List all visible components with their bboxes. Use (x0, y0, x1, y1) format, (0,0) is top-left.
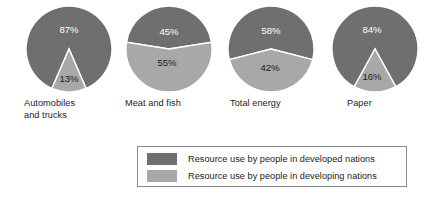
legend-swatch-developed (147, 153, 177, 165)
pie-svg-3: 84% 16% (320, 0, 430, 96)
pie-svg-0: 87% 13% (14, 0, 124, 96)
slice-value-developing-3: 16% (362, 71, 382, 82)
pie-graphic: 45% 55% (114, 0, 224, 96)
pie-chart-row: 87% 13% Automobiles and trucks 45% 55% M… (0, 0, 432, 136)
pie-chart-figure: 87% 13% Automobiles and trucks 45% 55% M… (0, 0, 432, 208)
legend-item-developed: Resource use by people in developed nati… (147, 152, 375, 166)
pie-chart-total-energy: 58% 42% Total energy (216, 0, 326, 136)
legend-item-developing: Resource use by people in developing nat… (147, 169, 377, 183)
slice-value-developing-2: 42% (260, 62, 280, 73)
slice-value-developed-2: 58% (261, 25, 281, 36)
pie-graphic: 87% 13% (14, 0, 124, 96)
slice-value-developing-1: 55% (157, 57, 177, 68)
legend: Resource use by people in developed nati… (137, 146, 407, 187)
legend-label-developing: Resource use by people in developing nat… (188, 171, 377, 181)
pie-chart-paper: 84% 16% Paper (320, 0, 430, 136)
pie-chart-meat-and-fish: 45% 55% Meat and fish (114, 0, 224, 136)
pie-label-paper: Paper (347, 98, 372, 110)
pie-svg-2: 58% 42% (216, 0, 326, 96)
pie-label-meat-and-fish: Meat and fish (125, 98, 181, 110)
slice-value-developed-1: 45% (159, 26, 179, 37)
pie-slices-1 (126, 6, 212, 92)
slice-value-developed-0: 87% (59, 24, 79, 35)
slice-value-developing-0: 13% (59, 73, 79, 84)
slice-value-developed-3: 84% (362, 24, 382, 35)
pie-label-automobiles-and-trucks: Automobiles and trucks (24, 98, 75, 121)
pie-svg-1: 45% 55% (114, 0, 224, 96)
pie-slices-2 (228, 6, 314, 92)
pie-label-total-energy: Total energy (230, 98, 281, 110)
legend-label-developed: Resource use by people in developed nati… (188, 154, 375, 164)
pie-graphic: 58% 42% (216, 0, 326, 96)
pie-chart-automobiles-and-trucks: 87% 13% Automobiles and trucks (14, 0, 124, 136)
legend-swatch-developing (147, 170, 177, 182)
pie-graphic: 84% 16% (320, 0, 430, 96)
